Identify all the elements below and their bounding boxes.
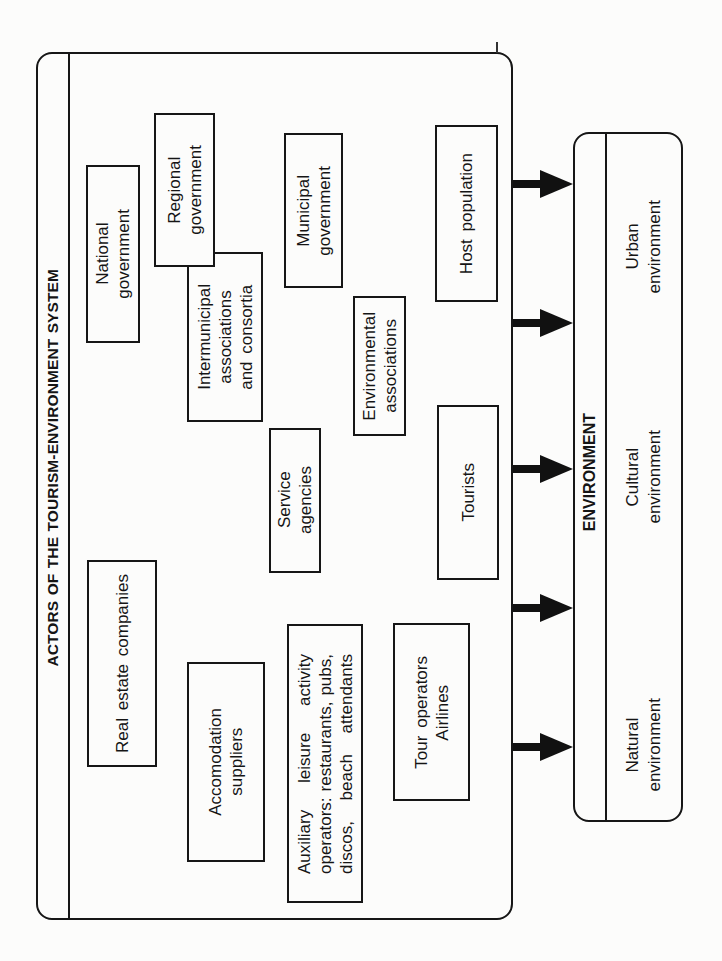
actor-label-line: Environmental — [359, 312, 380, 421]
actor-label: Auxiliary leisure activity operators: re… — [294, 654, 357, 874]
actor-label-line: National — [92, 209, 113, 299]
actor-box-tour-operators-airlines: Tour operators Airlines — [393, 623, 470, 801]
actor-label-line: Regional — [164, 145, 185, 235]
env-label-line: environment — [644, 698, 666, 792]
actor-label-line: Municipal — [293, 166, 314, 256]
actor-box-real-estate-companies: Real estate companies — [87, 560, 157, 767]
arrow-right-icon — [513, 733, 573, 761]
actor-label: Host population — [456, 153, 477, 274]
actor-label: Accomodation suppliers — [205, 708, 247, 816]
env-label-line: environment — [644, 200, 666, 294]
actor-label-line: Airlines — [432, 656, 453, 769]
actor-label-line: associations — [215, 284, 236, 390]
actor-label: Intermunicipal associations and consorti… — [194, 284, 257, 390]
arrow-right-icon — [513, 170, 573, 198]
actor-label-line: associations — [380, 312, 401, 421]
env-label: Natural environment — [622, 698, 666, 792]
actor-label: Tourists — [458, 463, 479, 522]
arrow-right-icon — [513, 309, 573, 337]
header-divider — [68, 54, 70, 918]
env-label-line: Natural — [622, 698, 644, 792]
actor-label-line: Tour operators — [411, 656, 432, 769]
actor-box-regional-government: Regional government — [154, 113, 215, 267]
env-label-line: Cultural — [622, 430, 644, 524]
env-item-urban: Urban environment — [607, 187, 681, 307]
actor-box-service-agencies: Service agencies — [269, 428, 321, 573]
actor-label-line: operators: restaurants, pubs, — [315, 654, 336, 874]
arrow-right-icon — [513, 594, 573, 622]
env-label: Urban environment — [622, 200, 666, 294]
env-label: Cultural environment — [622, 430, 666, 524]
actor-label-line: suppliers — [226, 708, 247, 816]
actor-label-line: government — [113, 209, 134, 299]
actor-box-intermunicipal-associations: Intermunicipal associations and consorti… — [187, 252, 263, 422]
actor-label-line: agencies — [295, 466, 316, 534]
arrow-right-icon — [513, 455, 573, 483]
actor-box-environmental-associations: Environmental associations — [353, 296, 406, 436]
actor-box-accomodation-suppliers: Accomodation suppliers — [187, 662, 265, 862]
actors-panel-title: ACTORS OF THE TOURISM-ENVIRONMENT SYSTEM — [44, 269, 62, 667]
actor-label: Regional government — [164, 145, 206, 235]
actor-box-national-government: National government — [86, 165, 140, 343]
env-label-line: Urban — [622, 200, 644, 294]
actor-label-line: Host population — [456, 153, 477, 274]
actor-label: Real estate companies — [112, 574, 133, 753]
actor-box-municipal-government: Municipal government — [284, 133, 343, 288]
scan-mark — [496, 42, 498, 53]
actor-label-line: government — [314, 166, 335, 256]
actor-box-tourists: Tourists — [437, 405, 499, 580]
actor-label-line: Service — [274, 466, 295, 534]
actor-label-line: Intermunicipal — [194, 284, 215, 390]
actor-label: Service agencies — [274, 466, 316, 534]
actor-box-host-population: Host population — [435, 125, 498, 302]
actor-label: National government — [92, 209, 134, 299]
actor-label-line: Auxiliary leisure activity — [294, 654, 315, 874]
actor-label-line: discos, beach attendants — [336, 654, 357, 874]
environment-panel-title: ENVIRONMENT — [581, 413, 599, 531]
actor-box-auxiliary-leisure-operators: Auxiliary leisure activity operators: re… — [287, 624, 363, 903]
actor-label-line: Tourists — [458, 463, 479, 522]
env-item-natural: Natural environment — [607, 685, 681, 805]
actor-label: Tour operators Airlines — [411, 656, 453, 769]
environment-panel: ENVIRONMENT Urban environment Cultural e… — [573, 132, 683, 822]
environment-panel-header: ENVIRONMENT — [575, 134, 605, 810]
actors-panel-header: ACTORS OF THE TOURISM-ENVIRONMENT SYSTEM — [38, 54, 68, 882]
actor-label: Municipal government — [293, 166, 335, 256]
actor-label: Environmental associations — [359, 312, 401, 421]
actor-label-line: Real estate companies — [112, 574, 133, 753]
env-label-line: environment — [644, 430, 666, 524]
actor-label-line: government — [185, 145, 206, 235]
env-item-cultural: Cultural environment — [607, 417, 681, 537]
actor-label-line: and consortia — [236, 284, 257, 390]
actor-label-line: Accomodation — [205, 708, 226, 816]
